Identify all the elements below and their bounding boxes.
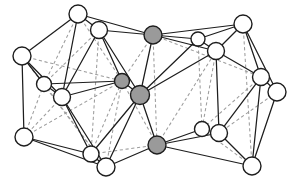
vertex-circle-n3[interactable] — [13, 47, 31, 65]
edge-n6-n7 — [24, 137, 91, 154]
vertex-circle-n6[interactable] — [15, 128, 33, 146]
edge-hidden-n17-n19 — [219, 92, 277, 133]
vertex-circle-n17[interactable] — [268, 83, 286, 101]
vertex-n6[interactable] — [15, 128, 33, 146]
edge-hidden-n8-n9 — [106, 81, 122, 167]
vertex-n7[interactable] — [83, 146, 99, 162]
edge-n1-n5 — [62, 14, 78, 97]
edge-hidden-n3-n9 — [22, 56, 122, 81]
edge-n2-n5 — [62, 30, 99, 97]
vertex-n3[interactable] — [13, 47, 31, 65]
edge-n7-n10 — [91, 95, 140, 154]
vertex-n15[interactable] — [234, 15, 252, 33]
vertex-n17[interactable] — [268, 83, 286, 101]
edge-hidden-n1-n4 — [44, 14, 78, 84]
vertex-n18[interactable] — [195, 122, 210, 137]
edge-n3-n6 — [22, 56, 24, 137]
polyhedral-graph — [0, 0, 294, 184]
vertex-circle-n9[interactable] — [115, 74, 130, 89]
vertex-n10[interactable] — [131, 86, 150, 105]
vertex-n1[interactable] — [69, 5, 87, 23]
vertex-circle-n16[interactable] — [253, 69, 270, 86]
vertex-n16[interactable] — [253, 69, 270, 86]
vertex-n4[interactable] — [37, 77, 52, 92]
vertex-circle-n10[interactable] — [131, 86, 150, 105]
vertex-circle-n15[interactable] — [234, 15, 252, 33]
vertex-n8[interactable] — [97, 158, 115, 176]
diagram-canvas — [0, 0, 294, 184]
edge-hidden-n16-n18 — [202, 77, 261, 129]
edge-hidden-n13-n18 — [198, 39, 202, 129]
vertex-n2[interactable] — [91, 22, 108, 39]
vertex-circle-n12[interactable] — [148, 136, 166, 154]
vertex-circle-n7[interactable] — [83, 146, 99, 162]
vertex-circle-n8[interactable] — [97, 158, 115, 176]
edge-hidden-n2-n4 — [44, 30, 99, 84]
vertex-circle-n13[interactable] — [191, 32, 205, 46]
vertex-circle-n18[interactable] — [195, 122, 210, 137]
edge-hidden-n14-n18 — [202, 51, 216, 129]
edge-n16-n19 — [219, 77, 261, 133]
edge-n14-n19 — [216, 51, 219, 133]
vertex-circle-n5[interactable] — [54, 89, 71, 106]
vertex-circle-n4[interactable] — [37, 77, 52, 92]
edge-n12-n20 — [157, 145, 252, 166]
vertex-circle-n2[interactable] — [91, 22, 108, 39]
vertex-n19[interactable] — [211, 125, 228, 142]
vertex-n14[interactable] — [208, 43, 225, 60]
edge-hidden-n11-n12 — [153, 35, 157, 145]
vertex-circle-n1[interactable] — [69, 5, 87, 23]
edge-n1-n3 — [22, 14, 78, 56]
vertex-n9[interactable] — [115, 74, 130, 89]
vertex-n5[interactable] — [54, 89, 71, 106]
vertex-n20[interactable] — [243, 157, 261, 175]
vertex-circle-n14[interactable] — [208, 43, 225, 60]
vertex-circle-n11[interactable] — [144, 26, 162, 44]
edge-hidden-n2-n7 — [91, 30, 99, 154]
vertex-n13[interactable] — [191, 32, 205, 46]
vertex-n11[interactable] — [144, 26, 162, 44]
edge-n5-n7 — [62, 97, 91, 154]
vertex-circle-n19[interactable] — [211, 125, 228, 142]
vertex-n12[interactable] — [148, 136, 166, 154]
vertex-circle-n20[interactable] — [243, 157, 261, 175]
